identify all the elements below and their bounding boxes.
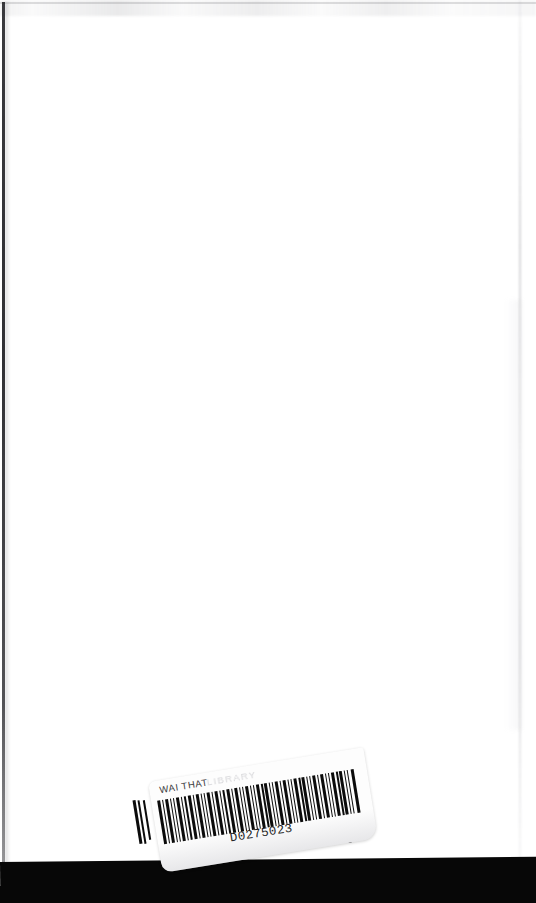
- top-scan-line: [0, 2, 536, 4]
- right-page-edge-shadow: [504, 300, 522, 730]
- left-page-edge-shadow: [5, 2, 10, 901]
- scanned-page: WAI THAT LIBRARY D0275023: [0, 0, 536, 903]
- bottom-black-band-fill: [0, 886, 536, 903]
- label-title: WAI THAT: [159, 777, 209, 796]
